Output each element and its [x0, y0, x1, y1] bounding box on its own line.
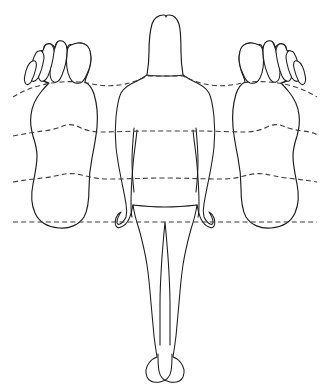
reflexology-diagram: Reflexology foot-to-body zone correspond… [0, 0, 330, 392]
right-foot-sole[interactable] [233, 41, 306, 228]
diagram-canvas [0, 0, 330, 392]
body-head-hair [147, 15, 183, 76]
left-foot-sole[interactable] [24, 41, 97, 228]
